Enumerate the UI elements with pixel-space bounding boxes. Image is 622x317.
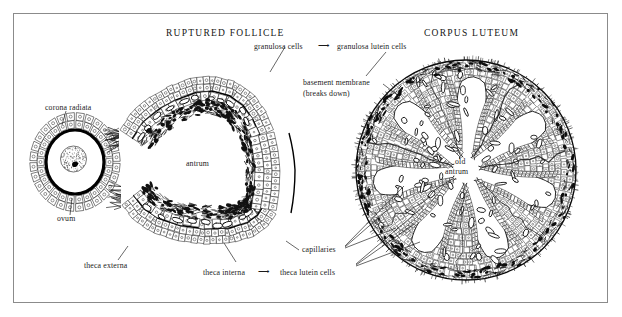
label-old-antrum-line2: antrum bbox=[445, 167, 468, 177]
arrow-granulosa: ⟶ bbox=[318, 41, 329, 50]
label-old-antrum-line1: old bbox=[455, 157, 466, 167]
leader-theca-interna bbox=[224, 243, 236, 262]
title-corpus-luteum: CORPUS LUTEUM bbox=[424, 28, 519, 38]
label-basement-membrane: basement membrane bbox=[303, 78, 370, 87]
ovary-histology-figure: RUPTURED FOLLICLE CORPUS LUTEUM corona r… bbox=[0, 0, 622, 317]
arrow-theca: ⟶ bbox=[258, 267, 269, 276]
label-antrum: antrum bbox=[186, 159, 209, 168]
label-granulosa-lutein-cells: granulosa lutein cells bbox=[337, 42, 407, 51]
label-basement-membrane-note: (breaks down) bbox=[303, 89, 350, 98]
leader-theca-externa bbox=[118, 246, 128, 260]
leader-granulosa-lutein bbox=[366, 52, 386, 76]
leader-capillaries-left bbox=[286, 241, 299, 250]
label-ovum: ovum bbox=[57, 214, 75, 223]
title-ruptured-follicle: RUPTURED FOLLICLE bbox=[166, 28, 285, 38]
label-granulosa-cells: granulosa cells bbox=[254, 42, 303, 51]
label-corona-radiata: corona radiata bbox=[45, 103, 91, 112]
label-theca-lutein-cells: theca lutein cells bbox=[280, 268, 335, 277]
label-theca-interna: theca interna bbox=[203, 268, 245, 277]
label-capillaries: capillaries bbox=[302, 245, 336, 254]
label-theca-externa: theca externa bbox=[84, 261, 127, 270]
